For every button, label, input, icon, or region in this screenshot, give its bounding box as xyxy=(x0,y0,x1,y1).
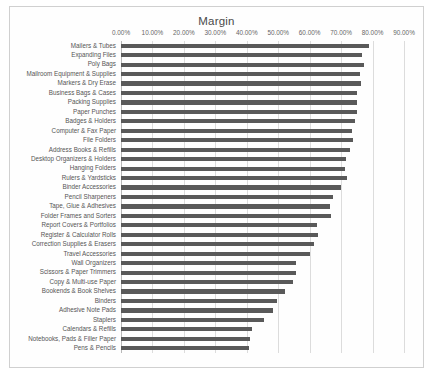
bar[interactable] xyxy=(121,289,285,293)
bar-row[interactable] xyxy=(121,88,404,97)
category-axis-tick: Hanging Folders xyxy=(10,164,119,173)
bar-row[interactable] xyxy=(121,287,404,296)
x-tick-label: 90.00% xyxy=(393,29,415,36)
plot-area xyxy=(121,41,404,353)
bar[interactable] xyxy=(121,337,250,341)
bar[interactable] xyxy=(121,119,355,123)
bar[interactable] xyxy=(121,204,330,208)
bar[interactable] xyxy=(121,261,296,265)
category-axis-tick: Scissors & Paper Trimmers xyxy=(10,268,119,277)
category-label: Copy & Multi-use Paper xyxy=(50,279,117,285)
category-label: Travel Accessories xyxy=(63,251,116,257)
bar[interactable] xyxy=(121,223,317,227)
bar-row[interactable] xyxy=(121,41,404,50)
bar-row[interactable] xyxy=(121,154,404,163)
bar-row[interactable] xyxy=(121,221,404,230)
bar[interactable] xyxy=(121,195,333,199)
bar-row[interactable] xyxy=(121,325,404,334)
category-label: Correction Supplies & Erasers xyxy=(32,241,116,247)
bar[interactable] xyxy=(121,53,362,57)
bar-row[interactable] xyxy=(121,249,404,258)
bar[interactable] xyxy=(121,72,360,76)
category-axis-tick: Binder Accessories xyxy=(10,183,119,192)
bar[interactable] xyxy=(121,318,264,322)
bar-row[interactable] xyxy=(121,98,404,107)
category-label: Scissors & Paper Trimmers xyxy=(40,269,116,275)
bar[interactable] xyxy=(121,308,273,312)
bar-row[interactable] xyxy=(121,277,404,286)
bar-row[interactable] xyxy=(121,211,404,220)
bar-row[interactable] xyxy=(121,344,404,353)
category-label: Address Books & Refills xyxy=(49,147,116,153)
category-axis-tick: Bookends & Book Shelves xyxy=(10,287,119,296)
bar-row[interactable] xyxy=(121,173,404,182)
bar-row[interactable] xyxy=(121,79,404,88)
bar[interactable] xyxy=(121,63,364,67)
bar[interactable] xyxy=(121,148,350,152)
bar-row[interactable] xyxy=(121,183,404,192)
bar-row[interactable] xyxy=(121,258,404,267)
x-tick-label: 50.00% xyxy=(267,29,289,36)
bar[interactable] xyxy=(121,185,341,189)
bar-row[interactable] xyxy=(121,136,404,145)
category-axis-tick: Computer & Fax Paper xyxy=(10,126,119,135)
category-axis-tick: Folder Frames and Sorters xyxy=(10,211,119,220)
category-axis-tick: Poly Bags xyxy=(10,60,119,69)
bar[interactable] xyxy=(121,110,357,114)
bar-row[interactable] xyxy=(121,117,404,126)
category-label: Mailers & Tubes xyxy=(71,43,116,49)
bar-row[interactable] xyxy=(121,126,404,135)
bar-row[interactable] xyxy=(121,69,404,78)
bar-row[interactable] xyxy=(121,164,404,173)
category-label: Computer & Fax Paper xyxy=(52,128,116,134)
bar-row[interactable] xyxy=(121,240,404,249)
category-label: Markers & Dry Erase xyxy=(58,80,116,86)
category-label: Binders xyxy=(95,298,116,304)
bar[interactable] xyxy=(121,129,352,133)
bar[interactable] xyxy=(121,252,310,256)
bar-row[interactable] xyxy=(121,334,404,343)
x-tick-label: 0.00% xyxy=(112,29,130,36)
category-label: Report Covers & Portfolios xyxy=(41,222,116,228)
category-label: Calendars & Refills xyxy=(62,326,116,332)
bar[interactable] xyxy=(121,271,296,275)
bar-row[interactable] xyxy=(121,306,404,315)
bar[interactable] xyxy=(121,157,346,161)
bar[interactable] xyxy=(121,346,249,350)
bar[interactable] xyxy=(121,100,357,104)
category-label: Tape, Glue & Adhesives xyxy=(49,203,116,209)
bar[interactable] xyxy=(121,233,318,237)
bar[interactable] xyxy=(121,214,331,218)
bar[interactable] xyxy=(121,44,369,48)
chart-title: Margin xyxy=(10,15,423,27)
bar-row[interactable] xyxy=(121,50,404,59)
bar[interactable] xyxy=(121,176,347,180)
category-label: Poly Bags xyxy=(88,61,116,67)
bar[interactable] xyxy=(121,242,314,246)
bar[interactable] xyxy=(121,81,361,85)
bar-series xyxy=(121,41,404,353)
bar-row[interactable] xyxy=(121,60,404,69)
bar[interactable] xyxy=(121,91,357,95)
category-label: Folder Frames and Sorters xyxy=(41,213,116,219)
bar-row[interactable] xyxy=(121,315,404,324)
bar[interactable] xyxy=(121,327,252,331)
category-axis-tick: Adhesive Note Pads xyxy=(10,306,119,315)
bar-row[interactable] xyxy=(121,230,404,239)
bar[interactable] xyxy=(121,299,277,303)
bar-row[interactable] xyxy=(121,145,404,154)
bar-row[interactable] xyxy=(121,107,404,116)
category-axis-tick: Badges & Holders xyxy=(10,117,119,126)
bar[interactable] xyxy=(121,138,353,142)
category-axis-tick: Travel Accessories xyxy=(10,249,119,258)
gridline xyxy=(404,41,405,353)
bar[interactable] xyxy=(121,167,345,171)
bar-row[interactable] xyxy=(121,296,404,305)
category-label: Register & Calculator Rolls xyxy=(41,232,116,238)
bar-row[interactable] xyxy=(121,202,404,211)
bar-row[interactable] xyxy=(121,268,404,277)
category-label: File Folders xyxy=(83,137,116,143)
bar[interactable] xyxy=(121,280,293,284)
category-axis-tick: Register & Calculator Rolls xyxy=(10,230,119,239)
bar-row[interactable] xyxy=(121,192,404,201)
